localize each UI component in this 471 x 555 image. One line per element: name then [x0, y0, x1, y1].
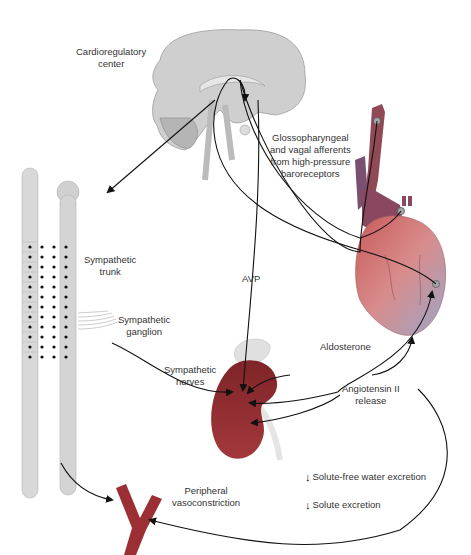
label-solute-free-water: ↓Solute-free water excretion [305, 471, 426, 483]
label-sympathetic-trunk: Sympathetic trunk [84, 254, 136, 278]
label-cardioregulatory-center: Cardioregulatory center [76, 46, 146, 70]
label-line: vasoconstriction [172, 497, 240, 509]
label-line: Cardioregulatory [76, 46, 146, 58]
label-line: Angiotensin II [342, 383, 400, 395]
down-arrow-icon: ↓ [305, 471, 311, 483]
label-solute-excretion: ↓Solute excretion [305, 499, 381, 511]
heart [356, 216, 446, 335]
sympathetic-chain [57, 181, 79, 495]
peripheral-vessel [116, 484, 162, 555]
label-aldosterone: Aldosterone [320, 341, 371, 353]
down-arrow-icon: ↓ [305, 499, 311, 511]
label-line: nerves [164, 376, 216, 388]
spinal-cord [22, 168, 38, 498]
label-avp: AVP [242, 273, 260, 285]
label-line: Sympathetic [118, 314, 170, 326]
label-line: Sympathetic [84, 254, 136, 266]
label-glossopharyngeal-afferents: Glossopharyngeal and vagal afferents fro… [270, 132, 351, 180]
label-line: from high-pressure [270, 156, 351, 168]
label-line: release [342, 395, 400, 407]
label-line: Sympathetic [164, 364, 216, 376]
label-line: center [76, 58, 146, 70]
label-line: trunk [84, 266, 136, 278]
label-peripheral-vasoconstriction: Peripheral vasoconstriction [172, 485, 240, 509]
label-angiotensin-release: Angiotensin II release [342, 383, 400, 407]
label-sympathetic-ganglion: Sympathetic ganglion [118, 314, 170, 338]
label-text: Solute excretion [313, 499, 381, 510]
label-line: baroreceptors [270, 168, 351, 180]
label-line: and vagal afferents [270, 144, 351, 156]
label-text: Solute-free water excretion [313, 471, 427, 482]
ganglion-fibers [78, 311, 118, 329]
label-sympathetic-nerves: Sympathetic nerves [164, 364, 216, 388]
label-line: Peripheral [172, 485, 240, 497]
label-line: ganglion [118, 326, 170, 338]
label-line: Glossopharyngeal [270, 132, 351, 144]
